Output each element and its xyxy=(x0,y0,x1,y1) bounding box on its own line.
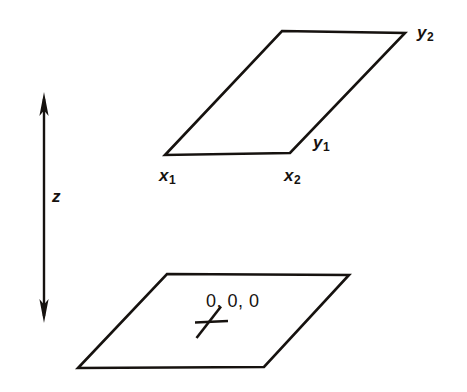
label-y2-subscript: 2 xyxy=(426,30,433,44)
label-origin-coordinates: 0, 0, 0 xyxy=(206,292,260,310)
origin-cross-mark xyxy=(195,307,228,339)
label-z: z xyxy=(52,188,61,205)
label-y1: y1 xyxy=(313,134,330,153)
label-x1-subscript: 1 xyxy=(168,173,175,187)
label-x2: x2 xyxy=(284,167,301,186)
label-x2-subscript: 2 xyxy=(293,173,300,187)
diagram-svg xyxy=(0,0,467,392)
label-y1-subscript: 1 xyxy=(322,140,329,154)
origin-mark-horizontal-stroke xyxy=(195,321,228,323)
figure-canvas: x1 x2 y1 y2 z 0, 0, 0 xyxy=(0,0,467,392)
upper-plane-outline xyxy=(165,31,405,155)
z-axis-arrow xyxy=(39,92,48,323)
label-y2: y2 xyxy=(417,24,434,43)
label-x1: x1 xyxy=(159,167,176,186)
